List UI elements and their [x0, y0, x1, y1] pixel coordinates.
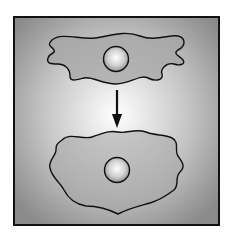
nucleus-bottom — [105, 158, 130, 183]
nucleus-top — [104, 47, 129, 72]
cell-spreading-diagram — [0, 0, 234, 236]
